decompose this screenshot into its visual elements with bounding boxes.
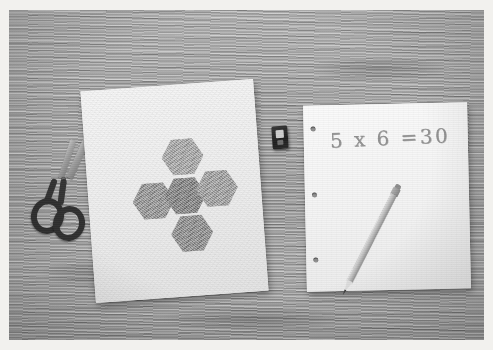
wood-knot xyxy=(159,306,349,332)
scissors[interactable] xyxy=(25,136,91,236)
pencil-sharpener[interactable] xyxy=(271,125,289,149)
hole-punch xyxy=(311,126,316,131)
handwritten-equation: 5 x 6 =30 xyxy=(329,123,456,153)
photograph-frame: 5 x 6 =30 xyxy=(0,0,493,350)
hole-punch xyxy=(312,192,317,197)
construction-paper[interactable] xyxy=(80,79,268,303)
hexagon-bottom[interactable] xyxy=(170,213,215,253)
hexagon-top[interactable] xyxy=(160,137,205,177)
sharpener-blade-plate xyxy=(275,130,284,139)
sharpener-hole xyxy=(277,140,283,145)
scissors-handle-arm xyxy=(57,179,67,206)
wood-knot xyxy=(309,56,449,82)
photo-plate: 5 x 6 =30 xyxy=(9,10,484,340)
hole-punch xyxy=(313,257,318,262)
